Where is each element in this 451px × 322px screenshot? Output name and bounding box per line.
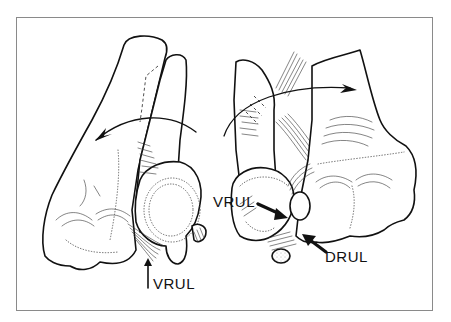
right-bone-group (224, 50, 416, 263)
label-vrul-left: VRUL (153, 276, 195, 291)
left-ulnar-head-shape (135, 162, 201, 264)
right-radius-shape (296, 50, 416, 243)
anatomical-illustration (0, 0, 451, 322)
label-drul-right: DRUL (325, 249, 368, 264)
left-vrul-arrowhead (144, 258, 152, 266)
left-bone-group (43, 36, 206, 288)
label-vrul-right: VRUL (213, 194, 255, 209)
right-fossa-shape (290, 192, 310, 220)
